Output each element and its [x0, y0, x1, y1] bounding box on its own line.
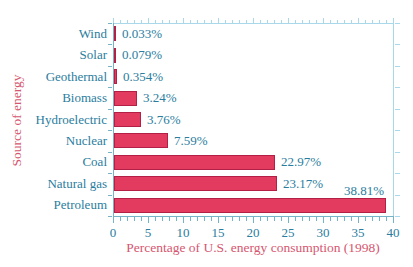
plot-frame-right — [393, 23, 394, 217]
x-tick-top — [183, 18, 184, 23]
x-tick-top — [225, 20, 226, 23]
x-tick-top — [169, 20, 170, 23]
bar-natural-gas — [114, 176, 277, 191]
x-tick-label-15: 15 — [203, 226, 233, 240]
y-boundary-tick-left — [108, 130, 112, 131]
x-tick-bottom — [351, 217, 352, 221]
x-tick-bottom — [274, 217, 275, 221]
x-tick-top — [197, 20, 198, 23]
x-tick-bottom — [365, 217, 366, 221]
y-boundary-tick-left — [108, 216, 112, 217]
x-tick-label-30: 30 — [308, 226, 338, 240]
x-tick-top — [302, 20, 303, 23]
x-tick-top — [260, 20, 261, 23]
x-tick-top — [232, 20, 233, 23]
x-tick-label-0: 0 — [98, 226, 128, 240]
category-label-nuclear: Nuclear — [3, 133, 107, 149]
value-label-wind: 0.033% — [122, 26, 162, 42]
x-tick-top — [127, 20, 128, 23]
x-tick-bottom — [169, 217, 170, 221]
x-tick-top — [134, 20, 135, 23]
x-axis-title: Percentage of U.S. energy consumption (1… — [103, 240, 403, 256]
y-boundary-tick-left — [108, 195, 112, 196]
y-boundary-tick-left — [108, 152, 112, 153]
x-tick-label-10: 10 — [168, 226, 198, 240]
category-label-coal: Coal — [3, 154, 107, 170]
bar-wind — [114, 26, 116, 41]
value-label-solar: 0.079% — [122, 47, 162, 63]
x-tick-bottom — [225, 217, 226, 221]
x-tick-top — [358, 18, 359, 23]
plot-frame-top — [113, 23, 394, 24]
y-boundary-tick-right — [395, 173, 400, 174]
category-label-solar: Solar — [3, 47, 107, 63]
x-tick-top — [253, 18, 254, 23]
x-tick-top — [239, 20, 240, 23]
y-boundary-tick-right — [395, 109, 400, 110]
x-tick-bottom — [316, 217, 317, 221]
value-label-biomass: 3.24% — [143, 90, 177, 106]
x-tick-top — [337, 20, 338, 23]
y-boundary-tick-left — [108, 109, 112, 110]
bar-hydroelectric — [114, 112, 141, 127]
x-tick-top — [344, 20, 345, 23]
x-tick-bottom — [239, 217, 240, 221]
value-label-geothermal: 0.354% — [123, 69, 163, 85]
x-tick-bottom — [204, 217, 205, 221]
bar-biomass — [114, 91, 137, 106]
x-tick-bottom — [393, 217, 394, 223]
x-tick-bottom — [120, 217, 121, 221]
value-label-nuclear: 7.59% — [174, 133, 208, 149]
category-label-biomass: Biomass — [3, 90, 107, 106]
x-tick-top — [176, 20, 177, 23]
x-tick-top — [113, 18, 114, 23]
x-tick-top — [155, 20, 156, 23]
x-tick-top — [393, 18, 394, 23]
x-tick-top — [365, 20, 366, 23]
x-tick-label-5: 5 — [133, 226, 163, 240]
x-tick-top — [330, 20, 331, 23]
x-tick-bottom — [260, 217, 261, 221]
x-tick-top — [148, 18, 149, 23]
x-tick-bottom — [127, 217, 128, 221]
x-tick-bottom — [141, 217, 142, 221]
value-label-coal: 22.97% — [281, 154, 321, 170]
x-tick-top — [246, 20, 247, 23]
x-tick-top — [141, 20, 142, 23]
x-tick-top — [386, 20, 387, 23]
x-tick-bottom — [323, 217, 324, 223]
x-tick-bottom — [211, 217, 212, 221]
x-tick-top — [190, 20, 191, 23]
x-tick-bottom — [309, 217, 310, 221]
x-tick-bottom — [379, 217, 380, 221]
x-tick-bottom — [358, 217, 359, 223]
y-boundary-tick-left — [108, 44, 112, 45]
x-tick-top — [288, 18, 289, 23]
x-tick-bottom — [134, 217, 135, 221]
energy-consumption-bar-chart: Source of energy Wind0.033%Solar0.079%Ge… — [0, 0, 413, 267]
y-boundary-tick-left — [108, 87, 112, 88]
x-tick-top — [274, 20, 275, 23]
x-tick-bottom — [288, 217, 289, 223]
x-tick-bottom — [183, 217, 184, 223]
x-tick-top — [204, 20, 205, 23]
x-tick-bottom — [190, 217, 191, 221]
x-tick-bottom — [295, 217, 296, 221]
x-tick-bottom — [267, 217, 268, 221]
x-tick-top — [218, 18, 219, 23]
x-tick-bottom — [232, 217, 233, 221]
x-tick-bottom — [281, 217, 282, 221]
x-tick-bottom — [330, 217, 331, 221]
y-boundary-tick-left — [108, 23, 112, 24]
x-tick-top — [295, 20, 296, 23]
x-tick-top — [267, 20, 268, 23]
x-tick-top — [309, 20, 310, 23]
category-label-hydroelectric: Hydroelectric — [3, 112, 107, 128]
x-tick-top — [211, 20, 212, 23]
x-tick-bottom — [302, 217, 303, 221]
bar-nuclear — [114, 133, 168, 148]
x-tick-bottom — [386, 217, 387, 221]
x-tick-top — [162, 20, 163, 23]
x-tick-bottom — [176, 217, 177, 221]
x-tick-bottom — [372, 217, 373, 221]
